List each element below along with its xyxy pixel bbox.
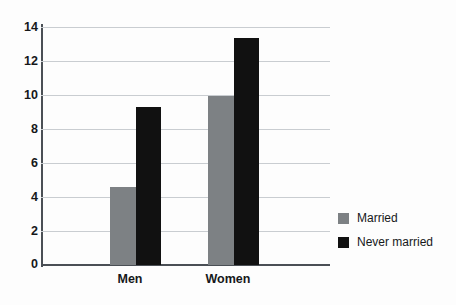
y-tick-4: 4 xyxy=(4,191,38,204)
x-axis-baseline xyxy=(41,264,330,266)
x-tick-label-women: Women xyxy=(193,273,263,286)
bar-women-married xyxy=(208,96,234,265)
bar-men-married xyxy=(110,187,136,265)
legend-item-married: Married xyxy=(338,208,433,228)
y-tick-10: 10 xyxy=(4,89,38,102)
y-tick-14: 14 xyxy=(4,21,38,34)
legend-label-never-married: Never married xyxy=(357,236,433,248)
never-married-swatch-icon xyxy=(338,237,349,248)
married-swatch-icon xyxy=(338,213,349,224)
x-tick-label-men: Men xyxy=(95,273,165,286)
gridline-4 xyxy=(41,197,330,198)
y-axis-tick-labels: 14 12 10 8 6 4 2 0 xyxy=(0,0,38,305)
y-tick-12: 12 xyxy=(4,55,38,68)
y-tick-2: 2 xyxy=(4,225,38,238)
gridline-8 xyxy=(41,129,330,130)
y-tick-8: 8 xyxy=(4,123,38,136)
y-tick-6: 6 xyxy=(4,157,38,170)
bar-women-never-married xyxy=(234,38,259,265)
gridline-6 xyxy=(41,163,330,164)
gridline-12 xyxy=(41,61,330,62)
legend-item-never-married: Never married xyxy=(338,232,433,252)
bar-chart: 14 12 10 8 6 4 2 0 Men Women Married Nev… xyxy=(0,0,456,305)
gridline-14 xyxy=(41,27,330,28)
legend-label-married: Married xyxy=(357,212,398,224)
y-tick-0: 0 xyxy=(4,258,38,271)
gridline-2 xyxy=(41,231,330,232)
bar-men-never-married xyxy=(136,107,161,265)
legend: Married Never married xyxy=(338,208,433,256)
gridline-10 xyxy=(41,95,330,96)
plot-area xyxy=(41,27,330,265)
